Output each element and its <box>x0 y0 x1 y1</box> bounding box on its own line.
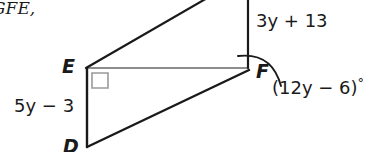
degree-symbol: ° <box>358 75 365 90</box>
measure-label-top-right: 3y + 13 <box>256 12 328 30</box>
segment-d-to-f <box>87 70 249 147</box>
reference-text: GFE, <box>0 0 35 17</box>
angle-expression: (12y − 6) <box>272 77 358 98</box>
measure-label-angle-f: (12y − 6)° <box>272 76 364 97</box>
vertex-label-d: D <box>63 137 79 152</box>
vertex-label-f: F <box>256 62 269 81</box>
segment-e-to-upper-apex <box>86 0 228 68</box>
measure-label-left: 5y − 3 <box>14 97 74 115</box>
geometry-figure-canvas: GFE, E F D 3y + 13 5y − 3 (12y − 6)° <box>0 0 369 152</box>
right-angle-mark-at-e <box>92 73 108 88</box>
vertex-label-e: E <box>62 57 75 76</box>
